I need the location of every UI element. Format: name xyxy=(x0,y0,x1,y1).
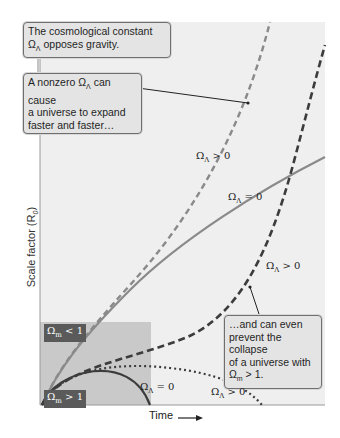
relation: < 1 xyxy=(62,325,83,336)
axis-label-text: Scale factor (R xyxy=(25,215,37,288)
callout-text: …and can even xyxy=(229,318,303,330)
leader-dot xyxy=(248,285,251,288)
subscript: m xyxy=(55,397,62,405)
label-open-lambda-zero: ΩΛ = 0 xyxy=(228,191,262,205)
relation: = 0 xyxy=(241,191,262,202)
relation: > 1 xyxy=(62,391,83,402)
omega-symbol: Ω xyxy=(28,38,36,50)
leader-dot xyxy=(246,101,249,104)
y-axis-label: Scale factor (R0) xyxy=(25,187,39,307)
tag-closed-universe: Ωm > 1 xyxy=(44,390,86,408)
callout-text: opposes gravity. xyxy=(41,38,120,50)
label-closed-lambda-zero: ΩΛ = 0 xyxy=(140,381,174,395)
label-closed-lambda-small: ΩΛ > 0 xyxy=(211,386,245,400)
label-closed-lambda-positive: ΩΛ > 0 xyxy=(266,260,300,274)
callout-accelerate: A nonzero ΩΛ can cause a universe to exp… xyxy=(23,73,142,134)
relation: > 0 xyxy=(224,386,245,397)
relation: = 0 xyxy=(153,381,174,392)
subscript: 0 xyxy=(32,211,39,215)
subscript: m xyxy=(55,331,62,339)
axis-label-text: ) xyxy=(25,207,37,211)
relation: > 0 xyxy=(209,150,230,161)
omega-symbol: Ω xyxy=(78,76,86,88)
arrowhead-icon xyxy=(196,415,203,421)
callout-text: faster and faster… xyxy=(28,119,114,131)
callout-cosmological-constant: The cosmological constant ΩΛ opposes gra… xyxy=(23,22,171,58)
x-axis-label: Time xyxy=(149,409,173,421)
tag-open-universe: Ωm < 1 xyxy=(44,324,86,342)
callout-text: a universe to expand xyxy=(28,106,125,118)
callout-prevent-collapse: …and can even prevent the collapse of a … xyxy=(224,315,322,389)
omega-symbol: Ω xyxy=(229,368,237,380)
callout-text: of a universe with xyxy=(229,356,311,368)
relation: > 0 xyxy=(279,260,300,271)
callout-text: > 1. xyxy=(243,368,264,380)
callout-text: A nonzero xyxy=(28,76,78,88)
callout-text: prevent the collapse xyxy=(229,331,282,356)
callout-text: The cosmological constant xyxy=(28,25,152,37)
label-open-lambda-positive: ΩΛ > 0 xyxy=(196,150,230,164)
